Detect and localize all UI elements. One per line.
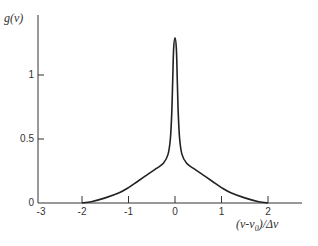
- y-tick-label: 0.5: [20, 133, 34, 144]
- x-tick-label: -2: [78, 206, 87, 217]
- x-tick-label: 0: [172, 206, 178, 217]
- x-axis-label: (ν-ν0)/Δν: [236, 217, 279, 233]
- x-tick-label: 1: [219, 206, 225, 217]
- x-tick-label: -1: [124, 206, 133, 217]
- line-chart: 00.51 -3-2-1012 g(ν) (ν-ν0)/Δν: [0, 0, 318, 246]
- x-tick-label: -3: [37, 206, 46, 217]
- data-line: [82, 38, 268, 203]
- x-tick-label: 2: [265, 206, 271, 217]
- x-ticks: -3-2-1012: [37, 196, 272, 217]
- y-tick-label: 0: [28, 197, 34, 208]
- y-ticks: 00.51: [20, 69, 44, 208]
- y-tick-label: 1: [28, 69, 34, 80]
- y-axis-label: g(ν): [4, 11, 23, 25]
